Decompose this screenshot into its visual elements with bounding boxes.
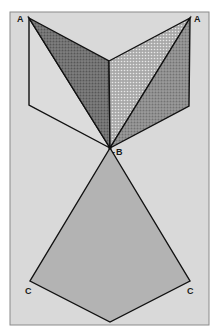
label-b-prefix: - [112, 147, 115, 157]
label-a-left: A [17, 14, 24, 24]
label-c-left: C [25, 286, 32, 296]
label-c-right: C [187, 286, 194, 296]
label-a-right: A [194, 14, 201, 24]
label-b: B [116, 147, 123, 157]
geometric-diagram: A A - B C C [0, 0, 219, 331]
